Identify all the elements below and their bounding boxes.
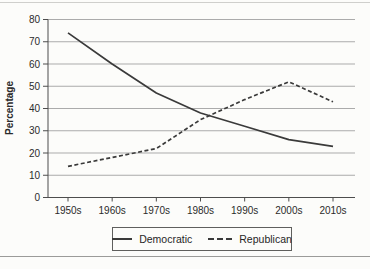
axis-labels: 010203040506070801950s1960s1970s1980s199…: [29, 14, 347, 216]
y-tick-label-30: 30: [29, 125, 41, 136]
y-tick-label-20: 20: [29, 148, 41, 159]
legend-label-democratic: Democratic: [139, 234, 192, 245]
bottom-border-rule: [0, 256, 370, 257]
y-tick-label-80: 80: [29, 14, 41, 25]
y-tick-label-10: 10: [29, 170, 41, 181]
gridlines: [48, 20, 355, 176]
chart-canvas: 010203040506070801950s1960s1970s1980s199…: [0, 0, 370, 225]
line-chart: 010203040506070801950s1960s1970s1980s199…: [0, 0, 370, 225]
legend-item-republican: Republican: [208, 234, 292, 245]
legend-label-republican: Republican: [239, 234, 292, 245]
axes: [43, 20, 355, 202]
republican-line-sample-icon: [208, 238, 232, 240]
y-tick-label-60: 60: [29, 59, 41, 70]
x-tick-label-1990s: 1990s: [231, 205, 258, 216]
legend-item-democratic: Democratic: [112, 234, 192, 245]
y-tick-label-0: 0: [34, 192, 40, 203]
legend: Democratic Republican: [112, 227, 292, 251]
series-line-democratic: [68, 33, 333, 146]
data-series: [68, 33, 333, 167]
democratic-line-sample-icon: [112, 238, 132, 240]
y-tick-label-70: 70: [29, 36, 41, 47]
x-tick-label-1950s: 1950s: [54, 205, 81, 216]
x-tick-label-1980s: 1980s: [187, 205, 214, 216]
y-axis-title: Percentage: [4, 81, 15, 135]
series-line-republican: [68, 82, 333, 167]
x-tick-label-2010s: 2010s: [319, 205, 346, 216]
x-tick-label-1960s: 1960s: [99, 205, 126, 216]
x-tick-label-1970s: 1970s: [143, 205, 170, 216]
y-tick-label-50: 50: [29, 81, 41, 92]
y-tick-label-40: 40: [29, 103, 41, 114]
x-tick-label-2000s: 2000s: [275, 205, 302, 216]
